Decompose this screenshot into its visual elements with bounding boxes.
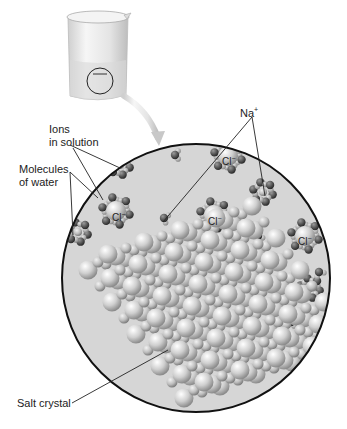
crystal-sodium	[187, 241, 198, 252]
crystal-chloride	[183, 297, 202, 316]
crystal-chloride	[147, 309, 166, 328]
crystal-sodium	[295, 325, 306, 336]
crystal-chloride	[165, 243, 184, 262]
leader-water-1	[70, 172, 98, 198]
water-oxygen	[125, 210, 133, 218]
crystal-chloride	[231, 241, 250, 260]
zoom-arrow	[124, 96, 158, 138]
water-oxygen	[237, 155, 245, 163]
crystal-sodium	[211, 273, 222, 284]
crystal-sodium	[157, 231, 168, 242]
water-oxygen	[266, 181, 274, 189]
water-hydrogen	[119, 155, 125, 161]
crystal-sodium	[121, 243, 132, 254]
crystal-chloride	[225, 263, 244, 282]
label-molecules-of-water: Molecules of water	[19, 163, 69, 189]
sodium-charge: +	[254, 106, 258, 113]
diagram-artwork	[0, 0, 347, 429]
crystal-chloride	[291, 261, 310, 280]
sodium-symbol: Na	[240, 107, 254, 119]
beaker-icon	[67, 11, 131, 100]
crystal-chloride	[135, 233, 154, 252]
label-chloride-2: Cl−	[222, 152, 236, 168]
crystal-sodium	[193, 219, 204, 230]
chloride-charge: −	[121, 211, 125, 218]
water-oxygen	[297, 218, 305, 226]
water-oxygen	[108, 193, 116, 201]
crystal-chloride	[123, 277, 142, 296]
label-sodium-ion: Na+	[240, 103, 258, 120]
crystal-sodium	[247, 261, 258, 272]
crystal-sodium	[205, 295, 216, 306]
crystal-chloride	[285, 283, 304, 302]
crystal-sodium	[181, 263, 192, 274]
crystal-chloride	[267, 229, 286, 248]
water-hydrogen	[250, 142, 256, 148]
water-oxygen	[206, 197, 214, 205]
label-salt-crystal: Salt crystal	[17, 397, 71, 410]
label-chloride-4: Cl−	[298, 232, 312, 248]
water-oxygen	[315, 268, 323, 276]
label-chloride-1: Cl−	[112, 208, 126, 224]
water-hydrogen	[286, 154, 292, 160]
crystal-chloride	[195, 253, 214, 272]
crystal-sodium	[283, 249, 294, 260]
crystal-chloride	[243, 317, 262, 336]
water-oxygen	[196, 207, 204, 215]
label-chloride-3: Cl−	[208, 212, 222, 228]
crystal-sodium	[151, 253, 162, 264]
water-oxygen	[98, 203, 106, 211]
crystal-chloride	[189, 275, 208, 294]
water-oxygen	[287, 228, 295, 236]
crystal-sodium	[235, 305, 246, 316]
crystal-chloride	[255, 273, 274, 292]
water-oxygen	[246, 136, 254, 144]
crystal-sodium	[199, 317, 210, 328]
zoom-arrow-head	[151, 131, 165, 146]
chloride-charge: −	[231, 155, 235, 162]
crystal-chloride	[261, 251, 280, 270]
crystal-chloride	[243, 197, 262, 216]
water-hydrogen	[230, 143, 236, 149]
chloride-charge: −	[217, 215, 221, 222]
crystal-chloride	[249, 295, 268, 314]
crystal-sodium	[259, 337, 270, 348]
crystal-chloride	[201, 231, 220, 250]
water-hydrogen	[119, 155, 125, 161]
sodium-ion	[74, 228, 82, 236]
crystal-sodium	[289, 347, 300, 358]
crystal-sodium	[115, 265, 126, 276]
water-hydrogen	[281, 160, 287, 166]
crystal-chloride	[279, 305, 298, 324]
crystal-sodium	[217, 371, 228, 382]
crystal-sodium	[139, 297, 150, 308]
crystal-sodium	[223, 229, 234, 240]
water-oxygen	[113, 151, 121, 159]
crystal-chloride	[237, 219, 256, 238]
crystal-sodium	[229, 327, 240, 338]
water-oxygen	[68, 164, 76, 172]
crystal-chloride	[207, 329, 226, 348]
crystal-sodium	[229, 207, 240, 218]
crystal-sodium	[277, 271, 288, 282]
crystal-sodium	[175, 285, 186, 296]
crystal-sodium	[325, 335, 336, 346]
crystal-sodium	[271, 293, 282, 304]
crystal-chloride	[231, 361, 250, 380]
water-oxygen	[280, 154, 288, 162]
crystal-chloride	[219, 285, 238, 304]
water-hydrogen	[73, 168, 79, 174]
crystal-chloride	[319, 341, 338, 360]
water-oxygen	[210, 148, 218, 156]
leader-ions-2	[73, 148, 103, 200]
chloride-charge: −	[307, 235, 311, 242]
water-oxygen	[171, 151, 179, 159]
crystal-sodium	[253, 359, 264, 370]
crystal-chloride	[195, 373, 214, 392]
water-oxygen	[220, 138, 228, 146]
crystal-chloride	[273, 327, 292, 346]
crystal-sodium	[259, 217, 270, 228]
crystal-chloride	[213, 307, 232, 326]
crystal-sodium	[265, 315, 276, 326]
water-hydrogen	[112, 157, 118, 163]
